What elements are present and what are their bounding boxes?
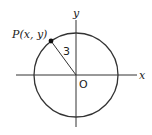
point-p	[49, 39, 54, 44]
coordinate-diagram: y x O 3 P(x, y)	[0, 0, 152, 135]
origin-label: O	[79, 78, 88, 91]
point-label: P(x, y)	[11, 28, 47, 41]
x-axis-label: x	[139, 69, 146, 82]
radius-label: 3	[63, 45, 70, 58]
y-axis-label: y	[72, 7, 80, 20]
